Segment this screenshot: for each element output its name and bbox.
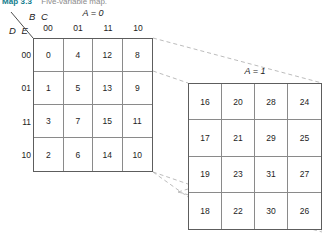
kmap-cell[interactable]: 9 — [123, 72, 153, 105]
figure-caption: Map 3.3 Five-variable map. — [2, 0, 107, 6]
row-header: 01 — [12, 72, 31, 106]
kmap-cell[interactable]: 24 — [288, 84, 321, 120]
kmap-cell[interactable]: 15 — [93, 105, 123, 138]
kmap-cell[interactable]: 20 — [222, 84, 255, 120]
kmap-cell[interactable]: 17 — [189, 120, 222, 156]
row-header: 10 — [12, 139, 31, 173]
kmap-cell[interactable]: 6 — [64, 138, 94, 171]
column-header: 00 — [33, 23, 63, 36]
kmap-cell[interactable]: 29 — [255, 120, 288, 156]
column-header: 10 — [123, 23, 153, 36]
kmap-cell[interactable]: 1 — [34, 72, 64, 105]
kmap-grid-a0: 0 4 12 8 1 5 13 9 3 7 15 11 2 6 14 10 — [33, 38, 153, 172]
kmap-cell[interactable]: 8 — [123, 39, 153, 72]
kmap-cell[interactable]: 13 — [93, 72, 123, 105]
kmap-cell[interactable]: 30 — [255, 193, 288, 229]
projection-line-upper — [153, 71, 188, 83]
kmap-cell[interactable]: 11 — [123, 105, 153, 138]
kmap-cell[interactable]: 19 — [189, 157, 222, 193]
row-headers-a0: 00 01 11 10 — [12, 38, 31, 172]
kmap-cell[interactable]: 18 — [189, 193, 222, 229]
map-title-a0: A = 0 — [33, 8, 153, 18]
kmap-cell[interactable]: 5 — [64, 72, 94, 105]
kmap-cell[interactable]: 28 — [255, 84, 288, 120]
figure-caption-text: Five-variable map. — [41, 0, 107, 6]
kmap-cell[interactable]: 14 — [93, 138, 123, 171]
kmap-cell[interactable]: 25 — [288, 120, 321, 156]
row-header: 11 — [12, 105, 31, 139]
kmap-cell[interactable]: 3 — [34, 105, 64, 138]
kmap-cell[interactable]: 26 — [288, 193, 321, 229]
kmap-grid-a1: 16 20 28 24 17 21 29 25 19 23 31 27 18 2… — [188, 83, 322, 230]
column-header: 11 — [93, 23, 123, 36]
kmap-cell[interactable]: 0 — [34, 39, 64, 72]
projection-line-bottom-stub — [178, 189, 188, 192]
axis-divider-slash — [9, 11, 35, 40]
map-title-a1: A = 1 — [188, 66, 322, 76]
kmap-cell[interactable]: 16 — [189, 84, 222, 120]
kmap-cell[interactable]: 21 — [222, 120, 255, 156]
projection-line-top — [153, 38, 322, 83]
column-header: 01 — [63, 23, 93, 36]
kmap-cell[interactable]: 7 — [64, 105, 94, 138]
column-headers-a0: 00 01 11 10 — [33, 23, 153, 36]
row-header: 00 — [12, 38, 31, 72]
five-variable-kmap-figure: Map 3.3 Five-variable map. B C D E A = 0… — [0, 0, 328, 236]
kmap-cell[interactable]: 2 — [34, 138, 64, 171]
kmap-cell[interactable]: 10 — [123, 138, 153, 171]
kmap-cell[interactable]: 4 — [64, 39, 94, 72]
kmap-cell[interactable]: 22 — [222, 193, 255, 229]
kmap-cell[interactable]: 27 — [288, 157, 321, 193]
kmap-cell[interactable]: 23 — [222, 157, 255, 193]
kmap-cell[interactable]: 31 — [255, 157, 288, 193]
kmap-cell[interactable]: 12 — [93, 39, 123, 72]
figure-caption-label: Map 3.3 — [2, 0, 32, 6]
projection-line-lower — [153, 172, 188, 197]
